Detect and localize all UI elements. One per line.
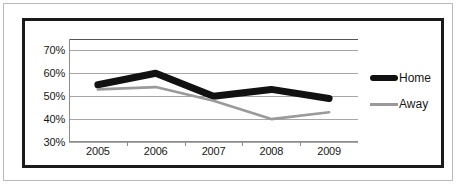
x-axis-tick-labels: 20052006200720082009 [69,145,358,163]
y-tick-label-30: 30% [44,136,65,148]
x-tick-label-2007: 2007 [202,145,226,157]
page-frame: 30%40%50%60%70% 20052006200720082009 Hom… [3,3,453,181]
legend-item-away: Away [370,91,442,117]
series-lines [69,39,358,142]
x-tick-label-2008: 2008 [259,145,283,157]
away-line-swatch [370,103,398,106]
x-tick-label-2005: 2005 [86,145,110,157]
x-tick-label-2006: 2006 [144,145,168,157]
home-line-swatch [370,75,398,81]
chart-legend: Home Away [370,65,442,117]
y-tick-label-40: 40% [44,113,65,125]
y-tick-label-70: 70% [44,44,65,56]
legend-label-home: Home [398,71,431,85]
x-tick-label-2009: 2009 [317,145,341,157]
y-tick-label-60: 60% [44,67,65,79]
legend-item-home: Home [370,65,442,91]
y-tick-label-50: 50% [44,90,65,102]
gridline-30 [69,142,358,143]
y-axis-tick-labels: 30%40%50%60%70% [27,39,65,142]
legend-label-away: Away [398,97,428,111]
plot-area [69,39,358,142]
series-line-home [98,73,329,98]
chart-container: 30%40%50%60%70% 20052006200720082009 Hom… [22,18,444,168]
